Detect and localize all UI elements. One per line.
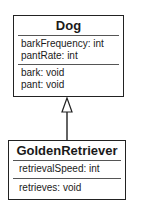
- attribute: pantRate: int: [14, 50, 123, 62]
- class-name: GoldenRetriever: [9, 141, 125, 160]
- attribute: retrievalSpeed: int: [9, 163, 125, 175]
- hollow-triangle-icon: [62, 98, 72, 112]
- method: bark: void: [14, 67, 123, 79]
- class-name: Dog: [14, 16, 123, 35]
- attribute: barkFrequency: int: [14, 38, 123, 50]
- method: pant: void: [14, 79, 123, 91]
- attributes-section: barkFrequency: int pantRate: int: [14, 36, 123, 64]
- methods-section: retrieves: void: [9, 179, 125, 196]
- attributes-section: retrievalSpeed: int: [9, 161, 125, 178]
- methods-section: bark: void pant: void: [14, 65, 123, 93]
- class-box-golden-retriever: GoldenRetriever retrievalSpeed: int retr…: [8, 140, 126, 200]
- class-box-dog: Dog barkFrequency: int pantRate: int bar…: [13, 15, 124, 97]
- method: retrieves: void: [9, 182, 125, 194]
